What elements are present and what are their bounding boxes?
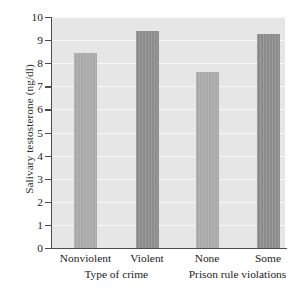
y-tick-label: 0 bbox=[22, 242, 43, 254]
x-group-label: Prison rule violations bbox=[189, 268, 286, 280]
x-tick-label: Nonviolent bbox=[60, 252, 111, 264]
x-tick-label: Some bbox=[255, 252, 281, 264]
y-tick-label: 10 bbox=[22, 11, 43, 23]
x-group-label: Type of crime bbox=[84, 268, 148, 280]
y-tick-label: 6 bbox=[22, 103, 43, 115]
y-tick-label: 8 bbox=[22, 57, 43, 69]
y-tick-label: 4 bbox=[22, 150, 43, 162]
bar-chart-figure: Salivary testosterone (ng/dl) 0123456789… bbox=[0, 0, 300, 290]
x-tick-label: None bbox=[195, 252, 220, 264]
y-tick-label: 9 bbox=[22, 34, 43, 46]
y-tick-label: 5 bbox=[22, 127, 43, 139]
y-axis-ticks: 012345678910 bbox=[0, 0, 300, 290]
y-tick-label: 3 bbox=[22, 173, 43, 185]
y-tick-label: 7 bbox=[22, 80, 43, 92]
x-tick-label: Violent bbox=[130, 252, 163, 264]
y-axis-line bbox=[51, 17, 52, 249]
y-tick-label: 2 bbox=[22, 196, 43, 208]
x-axis-line bbox=[51, 248, 287, 249]
y-tick-label: 1 bbox=[22, 219, 43, 231]
